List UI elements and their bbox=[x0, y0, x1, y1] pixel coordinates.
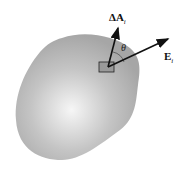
closed-surface bbox=[16, 34, 140, 160]
area-vector-label: ΔAi bbox=[109, 12, 126, 26]
angle-label: θ bbox=[121, 43, 126, 53]
flux-diagram bbox=[0, 0, 189, 172]
field-vector-label: Ei bbox=[164, 51, 173, 65]
area-element-patch bbox=[99, 62, 114, 72]
